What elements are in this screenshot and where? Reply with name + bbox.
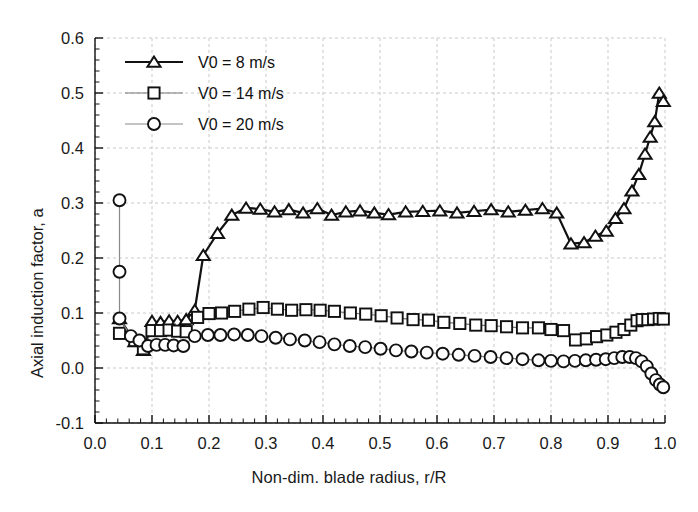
- data-point-marker-triangle: [617, 203, 630, 213]
- legend-entry-2[interactable]: V0 = 20 m/s: [125, 116, 284, 133]
- data-point-marker-square: [570, 334, 581, 345]
- x-axis-tick-label: 0.7: [483, 434, 506, 452]
- data-point-marker-circle: [532, 354, 544, 366]
- data-point-marker-circle: [314, 336, 326, 348]
- data-point-marker-square: [517, 322, 528, 333]
- data-point-marker-triangle: [600, 226, 613, 236]
- data-point-marker-circle: [114, 313, 126, 325]
- data-point-marker-square: [501, 321, 512, 332]
- data-point-marker-circle: [189, 330, 201, 342]
- legend-label: V0 = 20 m/s: [198, 116, 284, 133]
- data-point-marker-circle: [469, 350, 481, 362]
- data-point-marker-circle: [545, 355, 557, 367]
- data-point-marker-square: [229, 306, 240, 317]
- y-axis-tick-label: 0.4: [61, 139, 84, 157]
- data-point-marker-square: [258, 302, 269, 313]
- data-point-marker-square: [300, 304, 311, 315]
- data-point-marker-square: [470, 320, 481, 331]
- data-point-marker-circle: [375, 343, 387, 355]
- y-axis-label-container: Axial induction factor, a: [0, 0, 46, 440]
- data-point-marker-circle: [558, 355, 570, 367]
- data-point-marker-triangle: [311, 203, 324, 213]
- x-axis-tick-label: 1.0: [654, 434, 677, 452]
- x-axis-tick-label: 0.2: [198, 434, 221, 452]
- x-axis-tick-label: 0.9: [597, 434, 620, 452]
- data-point-marker-triangle: [625, 185, 638, 195]
- data-point-marker-square: [329, 306, 340, 317]
- y-axis-tick-label: 0.6: [61, 29, 84, 47]
- data-point-marker-circle: [177, 340, 189, 352]
- data-point-marker-circle: [214, 329, 226, 341]
- data-point-marker-triangle: [648, 116, 661, 126]
- data-point-marker-circle: [242, 329, 254, 341]
- data-point-marker-circle: [202, 329, 214, 341]
- x-axis-label: Non-dim. blade radius, r/R: [0, 468, 698, 487]
- legend-label: V0 = 14 m/s: [198, 85, 284, 102]
- data-point-marker-circle: [517, 353, 529, 365]
- y-axis-tick-label: 0.0: [61, 359, 84, 377]
- data-point-marker-square: [438, 317, 449, 328]
- y-axis-tick-label: -0.1: [56, 414, 84, 432]
- x-axis-tick-label: 0.1: [141, 434, 164, 452]
- data-point-marker-circle: [405, 346, 417, 358]
- data-point-marker-circle: [437, 348, 449, 360]
- data-point-marker-square: [658, 313, 669, 324]
- data-point-marker-square: [545, 324, 556, 335]
- data-point-marker-square: [392, 312, 403, 323]
- x-axis-tick-label: 0.8: [540, 434, 563, 452]
- data-point-marker-circle: [114, 194, 126, 206]
- data-point-marker-square: [360, 309, 371, 320]
- data-point-marker-square: [203, 308, 214, 319]
- data-point-marker-triangle: [644, 132, 657, 142]
- data-point-marker-square: [533, 322, 544, 333]
- data-point-marker-circle: [299, 335, 311, 347]
- data-point-marker-square: [486, 320, 497, 331]
- data-point-marker-circle: [390, 344, 402, 356]
- legend-entry-0[interactable]: V0 = 8 m/s: [125, 54, 275, 71]
- data-point-marker-square: [114, 328, 125, 339]
- data-point-marker-square: [272, 304, 283, 315]
- data-point-marker-circle: [328, 338, 340, 350]
- data-point-marker-circle: [344, 340, 356, 352]
- data-point-marker-circle: [255, 330, 267, 342]
- data-point-marker-circle: [228, 328, 240, 340]
- data-point-marker-triangle: [639, 149, 652, 159]
- y-axis-tick-label: 0.1: [61, 304, 84, 322]
- data-point-marker-circle: [657, 381, 669, 393]
- data-point-marker-triangle: [632, 169, 645, 179]
- data-point-marker-circle: [501, 352, 513, 364]
- x-axis-tick-label: 0.6: [426, 434, 449, 452]
- data-point-marker-square: [558, 325, 569, 336]
- data-point-marker-square: [454, 318, 465, 329]
- series-layer: [113, 88, 670, 394]
- legend-layer: V0 = 8 m/sV0 = 14 m/sV0 = 20 m/s: [125, 54, 284, 133]
- x-axis-tick-label: 0.3: [255, 434, 278, 452]
- y-axis-tick-label: 0.3: [61, 194, 84, 212]
- data-point-marker-circle: [148, 118, 160, 130]
- data-point-marker-circle: [359, 341, 371, 353]
- data-point-marker-triangle: [225, 210, 238, 220]
- x-axis-tick-label: 0.4: [312, 434, 335, 452]
- data-point-marker-circle: [270, 332, 282, 344]
- chart-figure: -0.10.00.10.20.30.40.50.60.00.10.20.30.4…: [0, 0, 698, 512]
- data-point-marker-circle: [485, 351, 497, 363]
- data-point-marker-circle: [421, 347, 433, 359]
- x-axis-tick-label: 0.5: [369, 434, 392, 452]
- legend-entry-1[interactable]: V0 = 14 m/s: [125, 85, 284, 102]
- data-point-marker-square: [192, 312, 203, 323]
- data-point-marker-square: [243, 304, 254, 315]
- data-point-marker-triangle: [211, 228, 224, 238]
- x-axis-tick-label: 0.0: [84, 434, 107, 452]
- data-point-marker-square: [216, 307, 227, 318]
- data-point-marker-square: [423, 315, 434, 326]
- data-point-marker-square: [286, 305, 297, 316]
- plot-canvas: -0.10.00.10.20.30.40.50.60.00.10.20.30.4…: [0, 0, 698, 512]
- data-point-marker-square: [407, 314, 418, 325]
- data-point-marker-square: [315, 305, 326, 316]
- data-point-marker-square: [376, 310, 387, 321]
- data-point-marker-square: [148, 87, 159, 98]
- data-point-marker-square: [345, 307, 356, 318]
- y-axis-label: Axial induction factor, a: [28, 208, 47, 378]
- legend-label: V0 = 8 m/s: [198, 54, 275, 71]
- data-point-marker-triangle: [197, 250, 210, 260]
